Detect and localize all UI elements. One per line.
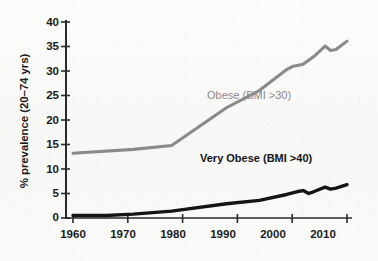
line-series-obese — [73, 41, 347, 153]
y-axis — [61, 20, 70, 219]
chart-container: % prevalence (20–74 yrs) 40 35 30 25 20 … — [0, 0, 378, 261]
plot-area — [0, 0, 378, 261]
line-series-very-obese — [73, 185, 347, 216]
